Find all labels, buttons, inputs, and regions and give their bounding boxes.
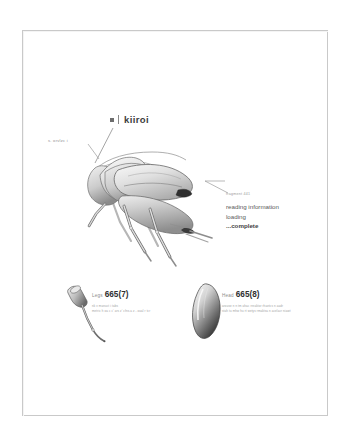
specimen-title-label: kiiroi <box>124 114 149 125</box>
specimen-legs-code: 665(7) <box>105 290 129 299</box>
callout-block: fragment 441 reading information loading… <box>226 192 318 231</box>
specimen-head-part-label: Head <box>222 293 234 298</box>
specimen-legs-part-label: Legs <box>92 293 103 298</box>
callout-kicker: fragment 441 <box>226 192 318 196</box>
specimen-title: kiiroi <box>110 114 149 125</box>
leader-line-callout <box>205 181 228 193</box>
leader-line-title <box>95 128 113 163</box>
callout-line-3: ...complete <box>226 221 318 231</box>
insect-illustration <box>88 152 212 266</box>
specimen-head-heading: Head665(8) <box>222 290 291 299</box>
specimen-legs-detail-line-2: metric h oa c c' ars z' cfns.a z - oual … <box>92 309 150 314</box>
specimen-caption-legs: Legs665(7) nk v manuct i tabs metric h o… <box>92 290 150 313</box>
specimen-head-code: 665(8) <box>236 290 260 299</box>
square-bullet-icon <box>110 118 114 122</box>
specimen-plate-page: kiiroi s. orvlzc i fragment 441 reading … <box>0 0 350 425</box>
leader-line-left-tag <box>88 144 99 159</box>
specimen-legs-heading: Legs665(7) <box>92 290 150 299</box>
specimen-legs-details: nk v manuct i tabs metric h oa c c' ars … <box>92 304 150 313</box>
left-annotation-tag: s. orvlzc i <box>48 138 68 143</box>
specimen-head-detail-line-2: stah tu mhw hu rt wetys rmaktsa n acelac… <box>222 309 291 314</box>
specimen-head-details: arouse n n tm ahac rreaktor rhaetcs n aa… <box>222 304 291 313</box>
callout-line-1: reading information <box>226 202 318 212</box>
specimen-caption-head: Head665(8) arouse n n tm ahac rreaktor r… <box>222 290 291 313</box>
specimen-head-detail-line-1: arouse n n tm ahac rreaktor rhaetcs n aa… <box>222 304 291 309</box>
callout-line-2: loading <box>226 212 318 222</box>
title-divider <box>118 115 119 124</box>
specimen-head-illustration <box>193 284 221 339</box>
